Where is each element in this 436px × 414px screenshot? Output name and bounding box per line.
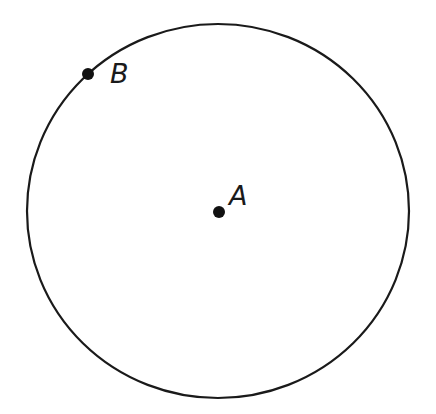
point-b-dot bbox=[82, 68, 94, 80]
circle-diagram bbox=[0, 0, 436, 414]
point-a-label: A bbox=[229, 182, 247, 209]
point-a-dot bbox=[213, 206, 225, 218]
point-b-label: B bbox=[110, 60, 129, 87]
